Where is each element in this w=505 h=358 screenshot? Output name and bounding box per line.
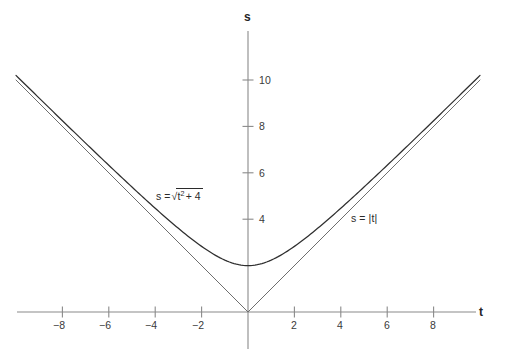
function-plot-figure: s t −8 −6 −4 −2 2 4 6 8 4 6 8 10 s =√t2+… <box>0 0 505 358</box>
curve-label-sqrt: s =√t2+ 4 <box>156 188 203 202</box>
x-tick-label--4: −4 <box>145 319 157 331</box>
x-tick-label-8: 8 <box>430 319 436 331</box>
y-axis-title: s <box>244 10 251 24</box>
x-tick-label--8: −8 <box>53 319 65 331</box>
x-tick-label-4: 4 <box>337 319 343 331</box>
x-tick-label--6: −6 <box>99 319 111 331</box>
radicand: t2+ 4 <box>176 188 202 202</box>
curve-label-abs: s = |t| <box>351 212 377 224</box>
radicand-exponent: 2 <box>181 189 185 198</box>
x-tick-label-2: 2 <box>291 319 297 331</box>
y-tick-label-8: 8 <box>259 120 265 132</box>
plot-canvas <box>0 0 505 358</box>
curve-label-sqrt-lhs: s = <box>156 190 171 202</box>
y-tick-label-10: 10 <box>259 74 271 86</box>
x-axis-title: t <box>479 305 483 319</box>
y-tick-label-4: 4 <box>259 213 265 225</box>
radicand-rest: + 4 <box>186 190 201 202</box>
x-tick-label-6: 6 <box>384 319 390 331</box>
y-tick-label-6: 6 <box>259 167 265 179</box>
x-tick-label--2: −2 <box>192 319 204 331</box>
radical-sign: √t2+ 4 <box>171 188 203 202</box>
